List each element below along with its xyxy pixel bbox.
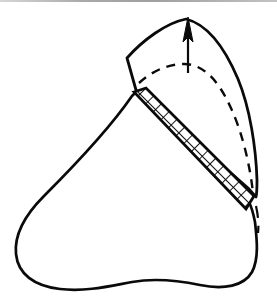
top-scan-line-artifact bbox=[0, 0, 277, 2]
figure-root: Rotational flap advancement diagram bbox=[0, 0, 277, 307]
line-art-diagram bbox=[0, 0, 277, 307]
